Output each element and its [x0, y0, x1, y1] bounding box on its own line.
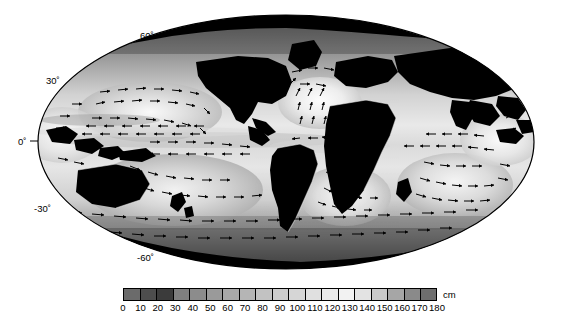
colorbar-tick-label: 150 [377, 303, 393, 313]
colorbar-tick-label: 160 [394, 303, 410, 313]
colorbar-tick-label: 80 [257, 303, 268, 313]
colorbar-tick-label: 110 [307, 303, 322, 313]
colorbar-tick-labels: 0102030405060708090100110120130140150160… [123, 303, 437, 317]
colorbar-tick-label: 100 [290, 303, 306, 313]
ocean-topography-figure: 60˚ 30˚ 0˚ -30˚ -60˚ 0102030405060708090… [0, 0, 567, 327]
colorbar-frame [123, 288, 437, 301]
colorbar-tick-label: 40 [187, 303, 198, 313]
dynamic-topography-colorbar [123, 288, 437, 301]
colorbar-tick-label: 50 [205, 303, 216, 313]
colorbar-tick-label: 170 [412, 303, 428, 313]
colorbar-tick-label: 130 [342, 303, 358, 313]
colorbar-tick-label: 140 [359, 303, 375, 313]
colorbar-unit-label: cm [443, 288, 456, 301]
colorbar-tick-label: 20 [153, 303, 164, 313]
colorbar-tick-label: 10 [135, 303, 146, 313]
colorbar-tick-label: 120 [324, 303, 340, 313]
colorbar-tick-label: 70 [240, 303, 251, 313]
colorbar-tick-label: 0 [120, 303, 125, 313]
colorbar-tick-label: 180 [429, 303, 445, 313]
colorbar-tick-label: 60 [222, 303, 233, 313]
colorbar-tick-label: 90 [275, 303, 286, 313]
colorbar-group: 0102030405060708090100110120130140150160… [0, 0, 567, 327]
colorbar-tick-label: 30 [170, 303, 181, 313]
